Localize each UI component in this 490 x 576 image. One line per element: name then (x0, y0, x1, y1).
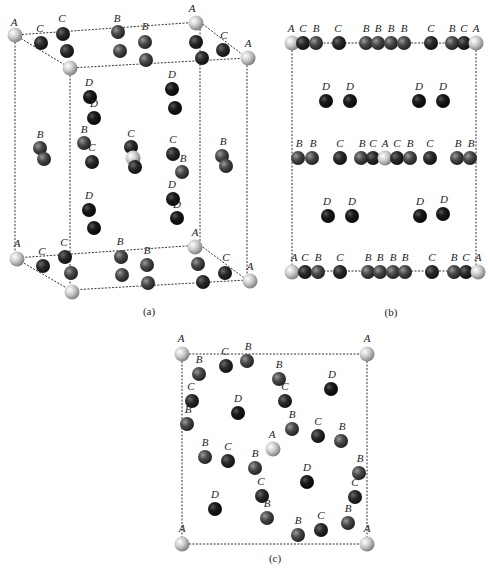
atom-label: D (327, 368, 336, 380)
atom-a (243, 274, 258, 289)
atom-c (216, 43, 230, 57)
atom-b (311, 265, 325, 279)
atom-label: C (36, 22, 44, 34)
atom-label: B (295, 514, 302, 526)
atom-label: C (336, 137, 344, 149)
atom-label: C (281, 380, 289, 392)
atom-a (241, 51, 256, 66)
atom-c (296, 36, 310, 50)
atom-label: B (402, 251, 409, 263)
atom-label: C (221, 345, 229, 357)
crystal-structure-figure: ACCBBACADDDBBCCCBBDDDACCBBACA ACBCBBBBCB… (0, 0, 490, 576)
atom-c (333, 265, 347, 279)
caption-a: (a) (143, 305, 156, 318)
atom-b (248, 461, 262, 475)
atom-label: D (233, 392, 242, 404)
panel-c-top-view: ACBABBDCDCBBCBABCBBDCCDBBCBAA (175, 332, 375, 552)
atom-b (138, 35, 152, 49)
atom-a (188, 240, 203, 255)
atom-label: B (375, 22, 382, 34)
panel-b-side-view: ACBCBBBBCBCADDDDBBCBCACBCBBDDDDACBCBBBBC… (285, 22, 486, 280)
atom-c (58, 250, 72, 264)
atom-label: C (58, 12, 66, 24)
atom-label: A (244, 37, 252, 49)
atom-label: D (438, 80, 447, 92)
atom-a (360, 537, 375, 552)
atom-label: B (315, 251, 322, 263)
atom-b (334, 434, 348, 448)
atom-label: B (144, 244, 151, 256)
atom-label: D (347, 195, 356, 207)
atom-label: B (289, 408, 296, 420)
atom-d (170, 211, 184, 225)
atom-label: D (321, 80, 330, 92)
atom-label: B (363, 22, 370, 34)
atom-b (192, 367, 206, 381)
atom-label: A (363, 522, 371, 534)
atom-label: B (245, 340, 252, 352)
atom-label: B (451, 251, 458, 263)
atom-c (85, 155, 99, 169)
atom-c (36, 259, 50, 273)
atom-b (403, 151, 417, 165)
atom-b (309, 36, 323, 50)
atom-label: B (359, 137, 366, 149)
atom-c (60, 44, 74, 58)
atom-label: B (401, 22, 408, 34)
atom-label: B (339, 420, 346, 432)
atom-b (191, 257, 205, 271)
caption-c: (c) (269, 552, 282, 565)
atom-b (305, 151, 319, 165)
atom-d (82, 203, 96, 217)
atom-d (413, 209, 427, 223)
atom-b (463, 151, 477, 165)
atom-c (425, 265, 439, 279)
atom-label: A (177, 332, 185, 344)
atom-a (469, 36, 484, 51)
atom-b (373, 265, 387, 279)
atom-c (424, 36, 438, 50)
atom-b (359, 36, 373, 50)
atom-label: C (351, 476, 359, 488)
atom-label: B (220, 135, 227, 147)
atom-a (10, 252, 25, 267)
atom-a (65, 285, 80, 300)
atom-d (300, 475, 314, 489)
atom-c (423, 151, 437, 165)
atom-label: B (390, 251, 397, 263)
atom-a (8, 28, 23, 43)
atom-label: A (381, 137, 389, 149)
atom-label: A (191, 226, 199, 238)
atom-label: C (222, 251, 230, 263)
atom-label: B (296, 137, 303, 149)
atom-label: D (322, 195, 331, 207)
atom-label: B (252, 447, 259, 459)
atom-label: C (317, 509, 325, 521)
atom-b (115, 268, 129, 282)
atom-label: B (388, 22, 395, 34)
atom-label: B (357, 452, 364, 464)
atom-label: C (220, 29, 228, 41)
atom-b (397, 36, 411, 50)
atom-label: A (290, 251, 298, 263)
atom-label: B (37, 128, 44, 140)
atom-b (140, 258, 154, 272)
atom-a (175, 347, 190, 362)
atom-b (260, 511, 274, 525)
atom-c (278, 394, 292, 408)
atom-label: C (88, 141, 96, 153)
atom-d (324, 382, 338, 396)
atom-label: A (472, 22, 480, 34)
atom-c (219, 359, 233, 373)
atom-d (87, 111, 101, 125)
atom-label: B (264, 497, 271, 509)
atom-label: A (13, 237, 21, 249)
atom-d (319, 94, 333, 108)
atom-label: C (334, 22, 342, 34)
atom-d (343, 94, 357, 108)
atom-c (311, 429, 325, 443)
atom-b (139, 53, 153, 67)
atom-label: D (84, 189, 93, 201)
atom-label: B (407, 137, 414, 149)
atom-d (208, 502, 222, 516)
